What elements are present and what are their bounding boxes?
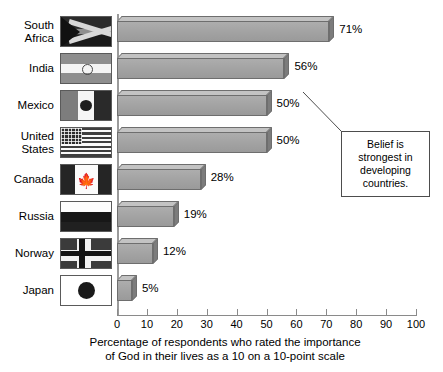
x-axis-tick [386,309,387,316]
x-axis-tick-label: 100 [407,318,425,330]
x-axis-tick-label: 40 [230,318,242,330]
bar [117,127,272,154]
bar-side-face [153,238,158,264]
bar-value-label: 56% [294,60,317,72]
bar-value-label: 50% [277,97,300,109]
x-axis-tick-label: 50 [260,318,272,330]
x-axis-tick-label: 30 [201,318,213,330]
bar-value-label: 5% [142,282,159,294]
bar-front-face [117,58,284,79]
bar-side-face [132,275,137,301]
bar-value-label: 12% [163,245,186,257]
bar-side-face [201,164,206,190]
bar [117,16,334,43]
bar-value-label: 71% [339,23,362,35]
bar-value-label: 19% [184,208,207,220]
annotation-callout: Belief is strongest in developing countr… [341,131,430,197]
bar-front-face [117,280,132,301]
x-axis-tick [237,309,238,316]
plot-area: 71%56%50%50%28%19%12%5% 0102030405060708… [0,0,443,372]
bar [117,53,289,80]
bar-front-face [117,95,267,116]
x-axis-tick-label: 60 [290,318,302,330]
bar [117,164,206,191]
bar-front-face [117,243,153,264]
bar-side-face [267,90,272,116]
x-axis-tick [267,309,268,316]
bar-side-face [284,53,289,79]
bar-front-face [117,169,201,190]
bar [117,201,179,228]
x-axis-tick-label: 20 [171,318,183,330]
bar-front-face [117,206,174,227]
bar [117,238,158,265]
bar [117,275,137,302]
x-axis-title: Percentage of respondents who rated the … [60,335,390,363]
bar-side-face [267,127,272,153]
bar-chart: South AfricaIndiaMexicoUnited StatesCana… [0,0,443,372]
bar-value-label: 50% [277,134,300,146]
x-axis-tick-label: 90 [380,318,392,330]
x-axis-tick-label: 10 [141,318,153,330]
bar [117,90,272,117]
x-axis-tick-label: 70 [320,318,332,330]
x-axis-tick [117,309,118,316]
bar-side-face [329,16,334,42]
bar-front-face [117,132,267,153]
x-axis-tick-label: 0 [114,318,120,330]
bar-side-face [174,201,179,227]
bar-value-label: 28% [211,171,234,183]
x-axis-tick [326,309,327,316]
x-axis-tick [356,309,357,316]
bar-front-face [117,21,329,42]
annotation-callout-text: Belief is strongest in developing countr… [354,138,416,190]
x-axis-tick [177,309,178,316]
x-axis-tick [207,309,208,316]
x-axis-tick [147,309,148,316]
x-axis-tick-label: 80 [350,318,362,330]
x-axis-tick [296,309,297,316]
x-axis-tick [416,309,417,316]
